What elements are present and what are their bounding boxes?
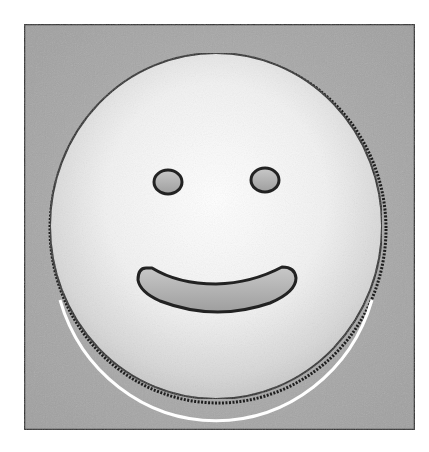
coin-face (50, 53, 382, 399)
smiley-coin-illustration (0, 0, 429, 452)
right-eye (251, 168, 279, 192)
left-eye (154, 170, 182, 194)
